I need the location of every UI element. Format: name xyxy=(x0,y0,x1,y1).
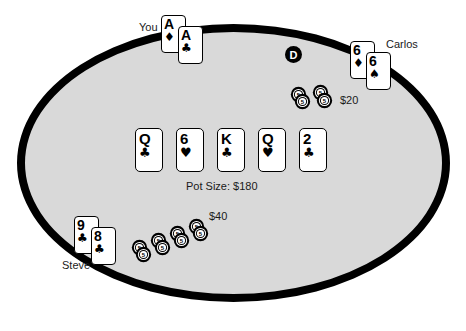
card-rank: 9 xyxy=(77,218,84,232)
community-card-2[interactable]: 6 ♥ xyxy=(176,128,204,172)
club-suit-icon: ♣ xyxy=(94,243,105,255)
poker-chip[interactable]: 5 xyxy=(154,239,171,256)
card-rank: 6 xyxy=(369,54,376,68)
card-rank: 8 xyxy=(94,229,101,243)
card-rank: Q xyxy=(139,131,150,146)
card-rank: A xyxy=(181,28,191,42)
diamond-suit-icon: ♦ xyxy=(353,57,364,69)
bet-amount-steve: $40 xyxy=(209,210,227,222)
poker-chip[interactable]: 5 xyxy=(173,232,190,249)
club-suit-icon: ♣ xyxy=(139,146,151,159)
poker-chip[interactable]: 5 xyxy=(316,92,333,109)
club-suit-icon: ♣ xyxy=(77,232,88,244)
card-rank: A xyxy=(164,17,174,31)
heart-suit-icon: ♥ xyxy=(262,146,274,159)
heart-suit-icon: ♥ xyxy=(180,146,192,159)
player-card-you-2[interactable]: A ♣ xyxy=(178,26,203,64)
community-card-5[interactable]: 2 ♣ xyxy=(299,128,327,172)
pot-size-label: Pot Size: $180 xyxy=(186,180,258,192)
card-rank: 6 xyxy=(353,43,360,57)
club-suit-icon: ♣ xyxy=(221,146,233,159)
poker-chip[interactable]: 5 xyxy=(135,246,152,263)
poker-table-scene: You A ♦ A ♣ D Carlos 6 ♦ 6 ♠ 5 5 xyxy=(0,0,466,331)
community-card-1[interactable]: Q ♣ xyxy=(135,128,163,172)
dealer-button[interactable]: D xyxy=(285,46,302,63)
spade-suit-icon: ♠ xyxy=(369,68,380,80)
card-rank: 6 xyxy=(180,131,188,146)
diamond-suit-icon: ♦ xyxy=(164,31,175,43)
player-label-steve: Steve xyxy=(62,259,90,271)
club-suit-icon: ♣ xyxy=(181,42,192,54)
card-rank: K xyxy=(221,131,231,146)
player-label-carlos: Carlos xyxy=(386,38,418,50)
poker-chip[interactable]: 5 xyxy=(192,225,209,242)
player-card-carlos-2[interactable]: 6 ♠ xyxy=(366,52,391,90)
bet-amount-carlos: $20 xyxy=(340,94,358,106)
community-card-4[interactable]: Q ♥ xyxy=(258,128,286,172)
player-card-steve-2[interactable]: 8 ♣ xyxy=(91,227,116,265)
community-card-3[interactable]: K ♣ xyxy=(217,128,245,172)
card-rank: 2 xyxy=(303,131,311,146)
card-rank: Q xyxy=(262,131,273,146)
player-label-you: You xyxy=(139,21,158,33)
club-suit-icon: ♣ xyxy=(303,146,315,159)
poker-chip[interactable]: 5 xyxy=(294,93,311,110)
